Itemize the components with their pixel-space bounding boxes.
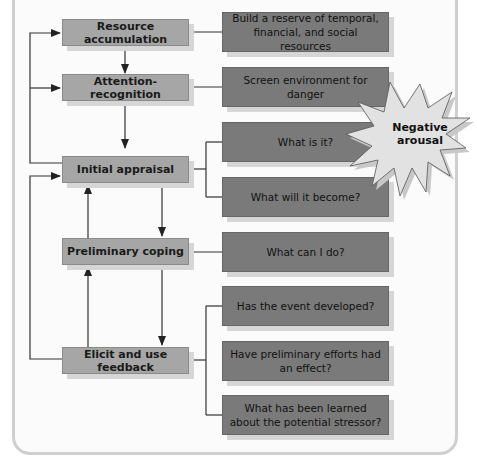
negative-arousal-label: Negative arousal (384, 121, 456, 147)
negative-arousal-burst (0, 0, 477, 465)
